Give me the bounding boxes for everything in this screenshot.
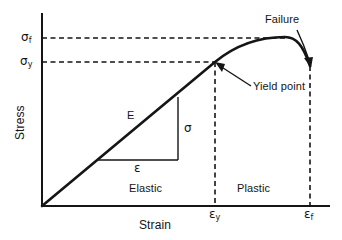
y-axis-label: Stress: [14, 105, 26, 140]
x-tick-epsilon-y-base: ε: [209, 207, 216, 221]
region-label-elastic: Elastic: [129, 183, 162, 194]
x-axis-label: Strain: [139, 219, 171, 231]
region-label-plastic: Plastic: [237, 183, 270, 194]
y-tick-sigma-y: σy: [20, 55, 32, 69]
x-tick-epsilon-y: εy: [209, 208, 220, 222]
y-tick-sigma-f-base: σ: [21, 30, 29, 44]
modulus-symbol-E: E: [127, 110, 134, 121]
failure-arrowhead: [304, 57, 313, 68]
y-tick-sigma-f-subscript: f: [29, 36, 32, 45]
modulus-symbol-sigma: σ: [184, 122, 192, 134]
x-tick-epsilon-y-subscript: y: [216, 213, 221, 222]
y-tick-sigma-f: σf: [21, 31, 32, 45]
stress-strain-curve: [42, 37, 310, 206]
y-tick-sigma-y-base: σ: [20, 54, 28, 68]
stress-strain-figure: Stress Strain σf σy εy εf Elastic Plasti…: [0, 0, 342, 240]
x-tick-epsilon-f-subscript: f: [311, 213, 314, 222]
stress-strain-chart: [0, 0, 342, 240]
x-tick-epsilon-f-base: ε: [304, 207, 311, 221]
yield-point-arrowhead: [215, 62, 225, 72]
x-tick-epsilon-f: εf: [304, 208, 313, 222]
yield-point-leader-line: [220, 66, 251, 86]
failure-annotation-label: Failure: [265, 14, 299, 25]
modulus-symbol-epsilon: ε: [134, 162, 141, 174]
yield-point-annotation-label: Yield point: [253, 81, 305, 92]
y-tick-sigma-y-subscript: y: [28, 60, 33, 69]
